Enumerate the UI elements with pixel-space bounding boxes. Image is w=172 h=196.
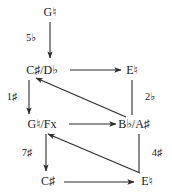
node-c-sharp-d-flat: C♯/D♭ (26, 64, 58, 76)
node-e-natural-lower: E♮ (141, 175, 153, 187)
edge-label-1-sharp: 1♯ (7, 92, 18, 103)
edge-label-7-sharp: 7♯ (22, 148, 33, 159)
edge-bbas-to-cs-diagonal (36, 78, 126, 117)
edge-label-5-flat: 5♭ (26, 33, 36, 44)
node-e-natural-upper: E♮ (126, 64, 138, 76)
edge-label-4-sharp: 4♯ (152, 148, 163, 159)
edge-label-2-flat: 2♭ (145, 92, 155, 103)
node-g-natural-f-double-sharp: G♮/Fx (28, 118, 57, 130)
node-g-natural: G♮ (44, 6, 57, 18)
node-b-flat-a-sharp: B♭/A♯ (118, 118, 150, 130)
edge-e-to-gnfx-diagonal (48, 134, 140, 173)
node-c-sharp-lower: C♯ (41, 175, 55, 187)
enharmonic-diagram: G♮ C♯/D♭ E♮ G♮/Fx B♭/A♯ C♯ E♮ 5♭ 1♯ 2♭ 7… (0, 0, 172, 196)
